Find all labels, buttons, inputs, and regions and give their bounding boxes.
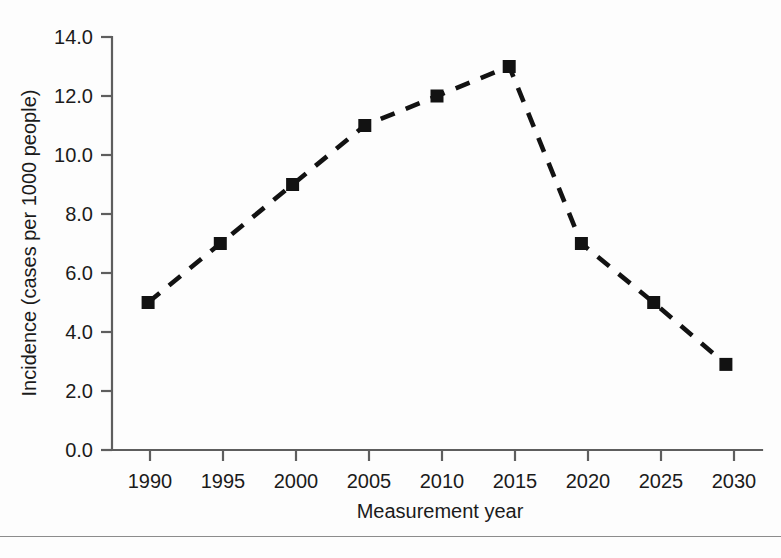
x-tick-label-1995: 1995 — [201, 470, 246, 492]
data-point-2000 — [286, 178, 299, 191]
y-tick-label-6: 6.0 — [65, 262, 93, 284]
chart-page: 14.0 12.0 10.0 8.0 6.0 4.0 2.0 0.0 — [0, 0, 781, 558]
y-tick-label-12: 12.0 — [54, 85, 93, 107]
y-tick-label-14: 14.0 — [54, 26, 93, 48]
x-tick-label-2005: 2005 — [347, 470, 392, 492]
x-tick-label-2030: 2030 — [712, 470, 757, 492]
y-axis-ticks — [101, 37, 112, 450]
y-tick-label-2: 2.0 — [65, 380, 93, 402]
data-point-1990 — [142, 296, 155, 309]
x-tick-label-2000: 2000 — [274, 470, 319, 492]
data-point-2030 — [719, 358, 732, 371]
x-axis-ticks — [150, 450, 734, 461]
x-tick-label-2010: 2010 — [420, 470, 465, 492]
page-divider-rule — [0, 536, 781, 537]
data-point-2025 — [647, 296, 660, 309]
x-tick-label-2015: 2015 — [493, 470, 538, 492]
chart-canvas: 14.0 12.0 10.0 8.0 6.0 4.0 2.0 0.0 — [0, 0, 781, 530]
y-axis-tick-labels: 14.0 12.0 10.0 8.0 6.0 4.0 2.0 0.0 — [54, 26, 93, 461]
y-tick-label-4: 4.0 — [65, 321, 93, 343]
data-point-2010 — [431, 90, 444, 103]
x-tick-label-2020: 2020 — [566, 470, 611, 492]
x-tick-label-2025: 2025 — [639, 470, 684, 492]
incidence-series-markers — [142, 60, 733, 371]
y-axis-title: Incidence (cases per 1000 people) — [18, 90, 40, 397]
incidence-series-line — [148, 67, 726, 365]
data-point-2005 — [358, 119, 371, 132]
line-chart-figure: 14.0 12.0 10.0 8.0 6.0 4.0 2.0 0.0 — [0, 0, 781, 530]
x-tick-label-1990: 1990 — [128, 470, 173, 492]
data-point-2020 — [575, 237, 588, 250]
y-tick-label-8: 8.0 — [65, 203, 93, 225]
data-point-1995 — [214, 237, 227, 250]
x-axis-tick-labels: 1990 1995 2000 2005 2010 2015 2020 2025 … — [128, 470, 757, 492]
x-axis-title: Measurement year — [357, 500, 524, 522]
y-tick-label-10: 10.0 — [54, 144, 93, 166]
y-tick-label-0: 0.0 — [65, 439, 93, 461]
data-point-2015 — [503, 60, 516, 73]
